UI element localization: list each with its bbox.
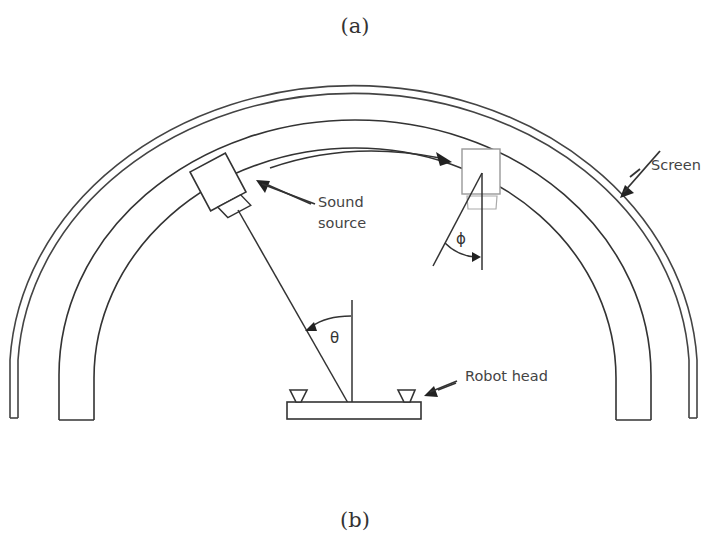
track bbox=[59, 120, 651, 420]
sound-arrow-line bbox=[262, 184, 315, 204]
screen bbox=[10, 86, 697, 418]
screen-arrowhead bbox=[620, 185, 634, 198]
theta-symbol: θ bbox=[330, 329, 339, 347]
sound-source-label-1: Sound bbox=[318, 194, 364, 210]
theta-angle bbox=[238, 210, 352, 410]
sound-source bbox=[190, 153, 253, 223]
phi-symbol: ϕ bbox=[456, 230, 466, 248]
robot-head bbox=[287, 390, 421, 419]
phi-angle bbox=[433, 173, 482, 270]
caption-b: (b) bbox=[0, 508, 710, 532]
screen-label: Screen bbox=[651, 157, 701, 173]
robot-head-label: Robot head bbox=[465, 368, 548, 384]
diagram: ϕ θ Screen Sound source Robot head bbox=[0, 0, 710, 542]
sound-source-label-2: source bbox=[318, 215, 366, 231]
